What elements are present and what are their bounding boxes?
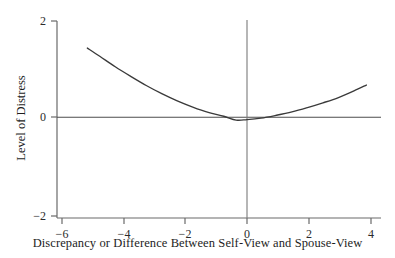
y-tick-label-minus-2: −2 — [30, 210, 46, 222]
y-axis-label-container: Level of Distress — [10, 0, 32, 258]
x-axis-label: Discrepancy or Difference Between Self-V… — [0, 236, 395, 251]
distress-curve-path — [87, 48, 366, 120]
chart-plot-area — [0, 0, 395, 258]
y-axis-label: Level of Distress — [14, 75, 29, 160]
distress-discrepancy-chart: 2 0 −2 −6 −4 −2 0 2 4 Discrepancy or Dif… — [0, 0, 395, 258]
y-tick-label-0: 0 — [30, 111, 46, 123]
y-tick-label-2: 2 — [30, 15, 46, 27]
